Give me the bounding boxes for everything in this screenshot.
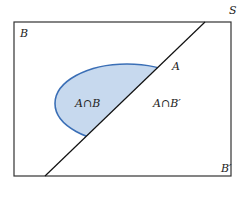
sample-space-label: S	[229, 4, 237, 17]
event-b-label: B	[19, 27, 28, 40]
complement-b-label: B′	[220, 162, 232, 175]
region-a-and-b-label: A∩B	[74, 97, 100, 110]
event-a-label: A	[171, 60, 180, 73]
venn-diagram: S B A A∩B A∩B′ B′	[0, 0, 247, 197]
region-a-and-not-b-label: A∩B′	[152, 97, 181, 110]
